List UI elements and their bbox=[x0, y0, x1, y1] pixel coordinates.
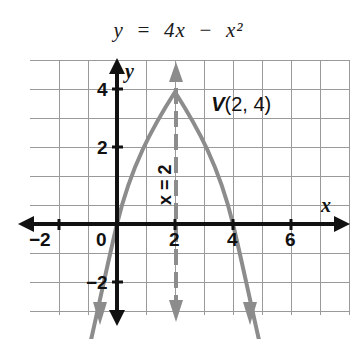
vertex-label: V(2, 4) bbox=[189, 70, 271, 139]
x-tick-label-0: 0 bbox=[96, 229, 107, 251]
x-tick-label-6: 6 bbox=[285, 229, 296, 251]
axis-of-symmetry-label: x = 2 bbox=[155, 164, 176, 205]
x-tick-label-4: 4 bbox=[227, 229, 238, 251]
x-tick-label-neg2: −2 bbox=[29, 229, 51, 251]
y-axis-label: y bbox=[125, 60, 134, 83]
x-axis bbox=[18, 216, 350, 232]
coordinate-plane bbox=[0, 0, 357, 339]
vertex-label-coords: (2, 4) bbox=[225, 93, 272, 115]
y-tick-label-4: 4 bbox=[97, 79, 108, 101]
x-tick-label-2: 2 bbox=[169, 229, 180, 251]
x-axis-label: x bbox=[321, 194, 331, 217]
graph-figure: y = 4x − x² bbox=[0, 0, 357, 339]
y-tick-label-neg2: −2 bbox=[86, 272, 108, 294]
vertex-label-letter: V bbox=[211, 93, 224, 115]
y-tick-label-2: 2 bbox=[97, 137, 108, 159]
y-axis bbox=[109, 58, 125, 326]
